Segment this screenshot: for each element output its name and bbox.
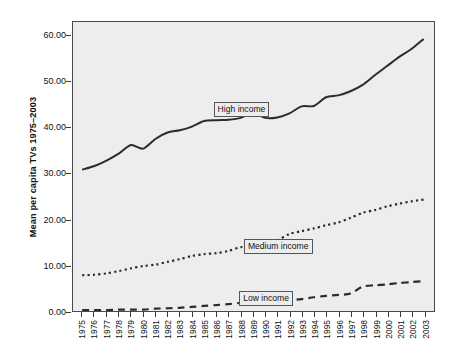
x-tick-label: 1981 bbox=[151, 320, 162, 360]
y-tick-label: 40.00 bbox=[26, 122, 66, 132]
x-tick-mark bbox=[425, 312, 426, 317]
y-tick-mark bbox=[66, 220, 71, 221]
x-axis-ticks: 1975197619771978197919801981198219831984… bbox=[72, 312, 435, 360]
x-tick-mark bbox=[118, 312, 119, 317]
x-tick-label: 1989 bbox=[249, 320, 260, 360]
x-tick-label: 1997 bbox=[347, 320, 358, 360]
x-tick-mark bbox=[376, 312, 377, 317]
plot-svg bbox=[73, 22, 434, 311]
x-tick-mark bbox=[179, 312, 180, 317]
x-tick-mark bbox=[216, 312, 217, 317]
y-tick-mark bbox=[66, 127, 71, 128]
y-tick-mark bbox=[66, 173, 71, 174]
x-tick-mark bbox=[253, 312, 254, 317]
series-line-medium-income bbox=[82, 200, 423, 276]
x-tick-mark bbox=[363, 312, 364, 317]
x-tick-label: 2001 bbox=[396, 320, 407, 360]
y-tick-mark bbox=[66, 35, 71, 36]
x-tick-label: 1995 bbox=[322, 320, 333, 360]
x-tick-label: 1984 bbox=[188, 320, 199, 360]
x-tick-label: 1996 bbox=[335, 320, 346, 360]
x-tick-label: 1999 bbox=[372, 320, 383, 360]
x-tick-label: 1976 bbox=[89, 320, 100, 360]
x-tick-label: 1979 bbox=[126, 320, 137, 360]
x-tick-label: 2003 bbox=[421, 320, 432, 360]
x-tick-label: 1987 bbox=[224, 320, 235, 360]
x-tick-label: 1975 bbox=[77, 320, 88, 360]
x-tick-label: 1985 bbox=[200, 320, 211, 360]
x-tick-label: 1994 bbox=[310, 320, 321, 360]
y-tick-mark bbox=[66, 312, 71, 313]
x-tick-mark bbox=[277, 312, 278, 317]
plot-area: High incomeMedium incomeLow income bbox=[72, 21, 435, 312]
x-tick-mark bbox=[143, 312, 144, 317]
x-tick-label: 1998 bbox=[359, 320, 370, 360]
y-axis-ticks: 0.0010.0020.0030.0040.0050.0060.00 bbox=[22, 0, 66, 360]
x-tick-label: 1988 bbox=[237, 320, 248, 360]
x-tick-mark bbox=[130, 312, 131, 317]
x-tick-label: 1986 bbox=[212, 320, 223, 360]
x-tick-mark bbox=[302, 312, 303, 317]
x-tick-mark bbox=[314, 312, 315, 317]
x-tick-label: 1982 bbox=[163, 320, 174, 360]
x-tick-mark bbox=[265, 312, 266, 317]
x-tick-mark bbox=[204, 312, 205, 317]
x-tick-label: 1983 bbox=[175, 320, 186, 360]
x-tick-label: 1993 bbox=[298, 320, 309, 360]
x-tick-mark bbox=[339, 312, 340, 317]
x-tick-mark bbox=[93, 312, 94, 317]
x-tick-label: 1992 bbox=[286, 320, 297, 360]
y-tick-mark bbox=[66, 81, 71, 82]
x-tick-mark bbox=[106, 312, 107, 317]
x-tick-label: 2000 bbox=[384, 320, 395, 360]
x-tick-label: 1980 bbox=[139, 320, 150, 360]
y-tick-label: 60.00 bbox=[26, 30, 66, 40]
x-tick-mark bbox=[81, 312, 82, 317]
y-tick-mark bbox=[66, 266, 71, 267]
x-tick-label: 1991 bbox=[273, 320, 284, 360]
x-tick-mark bbox=[412, 312, 413, 317]
x-tick-mark bbox=[228, 312, 229, 317]
series-group bbox=[82, 39, 423, 310]
x-tick-mark bbox=[351, 312, 352, 317]
y-tick-label: 50.00 bbox=[26, 76, 66, 86]
y-tick-label: 10.00 bbox=[26, 261, 66, 271]
x-tick-mark bbox=[388, 312, 389, 317]
x-tick-label: 2002 bbox=[408, 320, 419, 360]
series-label-medium-income: Medium income bbox=[244, 239, 313, 254]
x-tick-mark bbox=[290, 312, 291, 317]
x-tick-label: 1977 bbox=[102, 320, 113, 360]
y-tick-label: 30.00 bbox=[26, 168, 66, 178]
x-tick-mark bbox=[192, 312, 193, 317]
x-tick-mark bbox=[241, 312, 242, 317]
x-tick-mark bbox=[326, 312, 327, 317]
y-tick-label: 0.00 bbox=[26, 307, 66, 317]
series-label-low-income: Low income bbox=[239, 291, 293, 306]
x-tick-label: 1990 bbox=[261, 320, 272, 360]
series-label-high-income: High income bbox=[214, 102, 270, 117]
chart-figure: Mean per capita TVs 1975–2003 0.0010.002… bbox=[0, 0, 457, 360]
y-tick-label: 20.00 bbox=[26, 215, 66, 225]
x-tick-label: 1978 bbox=[114, 320, 125, 360]
x-tick-mark bbox=[167, 312, 168, 317]
x-tick-mark bbox=[400, 312, 401, 317]
x-tick-mark bbox=[155, 312, 156, 317]
